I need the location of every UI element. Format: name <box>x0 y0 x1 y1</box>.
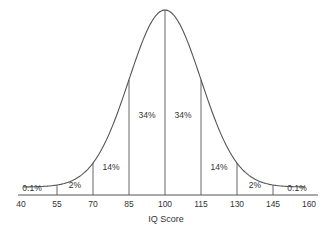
tick-label-55: 55 <box>52 199 62 209</box>
normal-distribution-curve <box>23 10 305 187</box>
bell-curve-chart: 40557085100115130145160 0.1%2%14%34%34%1… <box>0 0 325 230</box>
region-label-85-100: 34% <box>138 110 155 120</box>
x-axis-label: IQ Score <box>148 214 184 224</box>
region-label-145-160: 0.1% <box>287 183 307 193</box>
tick-label-40: 40 <box>16 199 26 209</box>
tick-label-100: 100 <box>158 199 172 209</box>
tick-label-145: 145 <box>266 199 280 209</box>
tick-label-115: 115 <box>194 199 208 209</box>
x-axis-tick-labels: 40557085100115130145160 <box>16 199 316 209</box>
region-label-70-85: 14% <box>102 162 119 172</box>
tick-label-130: 130 <box>230 199 244 209</box>
tick-label-70: 70 <box>88 199 98 209</box>
region-label-40-55: 0.1% <box>22 183 42 193</box>
tick-label-85: 85 <box>124 199 134 209</box>
region-label-100-115: 34% <box>174 110 191 120</box>
region-label-55-70: 2% <box>69 180 82 190</box>
tick-label-160: 160 <box>302 199 316 209</box>
region-label-130-145: 2% <box>249 180 262 190</box>
region-label-115-130: 14% <box>210 162 227 172</box>
